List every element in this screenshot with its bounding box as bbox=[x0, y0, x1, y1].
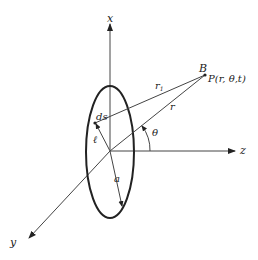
r1-label: r1 bbox=[155, 80, 164, 92]
r1-line bbox=[95, 75, 205, 123]
theta-label: θ bbox=[152, 127, 158, 138]
x-axis-label: x bbox=[107, 12, 114, 25]
a-label: a bbox=[114, 173, 120, 184]
ell-label: ℓ bbox=[93, 134, 97, 145]
ell-line bbox=[96, 124, 110, 151]
loop-diagram: x z y B P(r, θ,t) ds r1 r θ a ℓ bbox=[0, 0, 258, 260]
y-axis bbox=[29, 151, 110, 238]
point-p-label: P(r, θ,t) bbox=[207, 73, 246, 84]
z-axis-label: z bbox=[239, 144, 246, 157]
y-axis-label: y bbox=[9, 236, 17, 249]
point-b-label: B bbox=[198, 62, 207, 75]
theta-arc bbox=[142, 126, 150, 151]
r-label: r bbox=[170, 101, 176, 112]
ds-label: ds bbox=[96, 111, 108, 122]
